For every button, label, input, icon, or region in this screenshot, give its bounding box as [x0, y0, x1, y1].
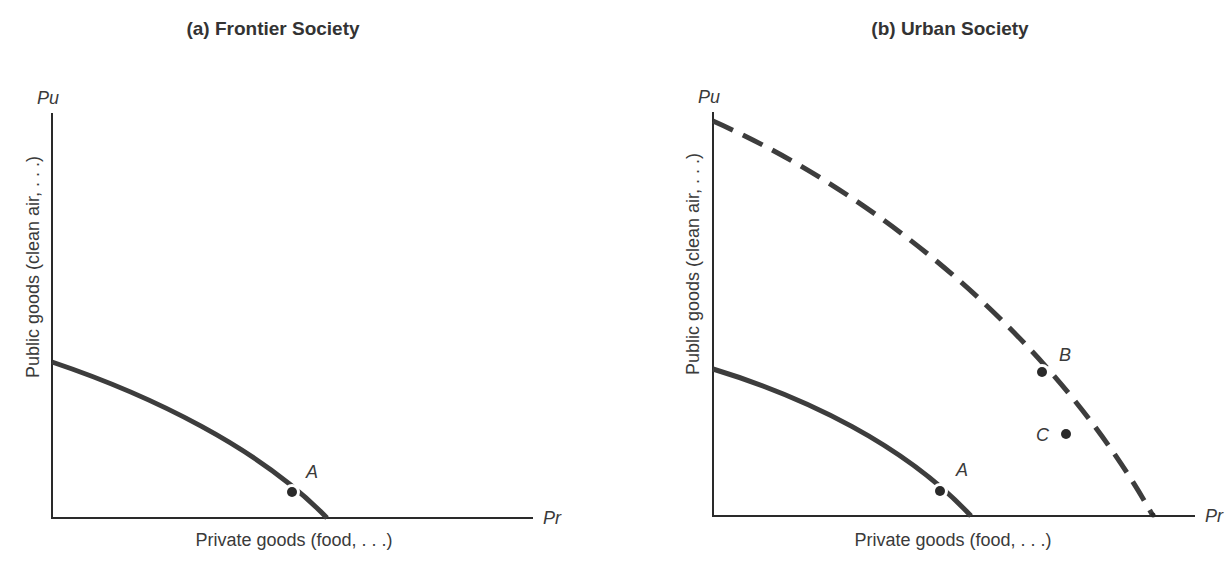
- panel-b-point-b: [1037, 367, 1047, 377]
- panel-a-y-symbol: Pu: [37, 88, 59, 109]
- panel-a-point-a-label: A: [306, 462, 318, 483]
- panel-b-x-symbol: Pr: [1205, 506, 1223, 527]
- panel-b-original-frontier-curve: [713, 369, 971, 516]
- panel-b-point-c-label: C: [1036, 425, 1049, 446]
- panel-b-plot: [712, 112, 1195, 518]
- panel-b-y-axis-label: Public goods (clean air, . . .): [683, 153, 704, 375]
- panel-a-x-axis-label: Private goods (food, . . .): [195, 530, 392, 551]
- panel-b-expanded-frontier-dashed-curve: [713, 121, 1153, 516]
- panel-b-point-a-label: A: [956, 460, 968, 481]
- panel-b-curve-end-dot: [1151, 513, 1156, 518]
- panel-b-point-c: [1061, 429, 1071, 439]
- panel-b-y-symbol: Pu: [698, 87, 720, 108]
- panel-a-point-a: [287, 487, 297, 497]
- panel-b-point-a: [935, 486, 945, 496]
- panel-a-title: (a) Frontier Society: [186, 18, 359, 40]
- panel-a-x-symbol: Pr: [543, 508, 561, 529]
- panel-b-x-axis-label: Private goods (food, . . .): [854, 530, 1051, 551]
- panel-a-y-axis-label: Public goods (clean air, . . .): [23, 156, 44, 378]
- panel-b-point-b-label: B: [1059, 345, 1071, 366]
- panel-a-plot: [51, 113, 533, 519]
- panel-b-title: (b) Urban Society: [871, 18, 1028, 40]
- charts-canvas: [0, 0, 1232, 568]
